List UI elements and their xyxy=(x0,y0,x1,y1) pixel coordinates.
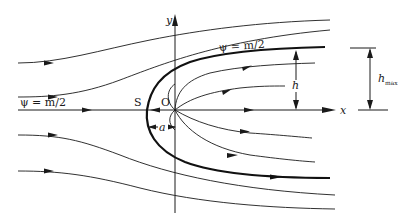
stagnation-distance-dimension: a xyxy=(148,121,176,134)
outer-streamlines-lower xyxy=(18,133,335,210)
flow-arrow-icon xyxy=(242,66,252,72)
dividing-streamline-label-axis: ψ = m/2 xyxy=(20,96,66,109)
dimension-arrow-icon xyxy=(293,50,299,60)
source-streamlines xyxy=(168,63,315,162)
max-half-width-dimension: hmax xyxy=(350,48,398,110)
flow-arrow-icon xyxy=(227,153,238,158)
dimension-arrow-icon xyxy=(293,100,299,110)
dimension-arrow-icon xyxy=(367,48,373,58)
half-width-dimension: h xyxy=(292,50,299,110)
x-axis-arrow-icon xyxy=(322,107,336,113)
dimension-arrow-icon xyxy=(367,100,373,110)
dividing-streamline-label-upper: ψ = m/2 xyxy=(218,38,265,54)
dividing-streamline xyxy=(147,47,330,180)
flow-arrow-icon xyxy=(150,108,160,113)
flow-arrow-icon xyxy=(270,175,282,180)
flow-arrow-icon xyxy=(82,108,92,113)
y-axis-arrow-icon xyxy=(172,14,178,26)
flow-arrow-icon xyxy=(244,108,254,113)
a-label: a xyxy=(159,121,166,134)
half-body-flow-diagram: h hmax a y x S O ψ = m/2 ψ = m/2 xyxy=(0,0,410,216)
outer-streamlines-upper xyxy=(18,20,330,100)
origin-label: O xyxy=(161,96,170,109)
h-label: h xyxy=(292,79,299,92)
y-axis-label: y xyxy=(165,14,173,27)
hmax-label: hmax xyxy=(378,72,398,86)
x-axis-label: x xyxy=(340,104,347,117)
flow-arrow-icon xyxy=(44,169,54,174)
stagnation-point-label: S xyxy=(134,96,142,109)
